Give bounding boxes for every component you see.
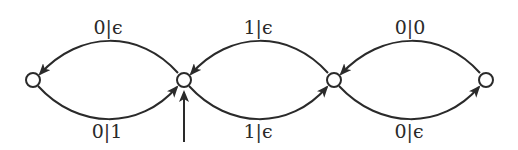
edge-q1-to-q0 xyxy=(40,41,178,74)
edge-q2-to-q1 xyxy=(191,41,328,74)
state-node-q1 xyxy=(177,73,191,87)
state-node-q0 xyxy=(26,73,40,87)
edge-q3-to-q2 xyxy=(341,41,480,74)
edge-label-q2-q1: 1|ϵ xyxy=(243,16,272,39)
edge-label-q1-q0: 0|ϵ xyxy=(93,16,122,39)
edge-label-q2-q3: 0|ϵ xyxy=(394,120,423,143)
edge-label-q3-q2: 0|0 xyxy=(395,16,426,39)
edge-q2-to-q3 xyxy=(339,86,479,119)
edge-label-q1-q2: 1|ϵ xyxy=(243,120,272,143)
state-diagram: 0|ϵ 0|1 1|ϵ 1|ϵ 0|0 0|ϵ xyxy=(0,0,518,150)
state-node-q2 xyxy=(327,73,341,87)
state-node-q3 xyxy=(479,73,493,87)
edge-label-q0-q1: 0|1 xyxy=(92,120,123,143)
edge-q1-to-q2 xyxy=(189,86,327,119)
edge-q0-to-q1 xyxy=(38,86,177,119)
